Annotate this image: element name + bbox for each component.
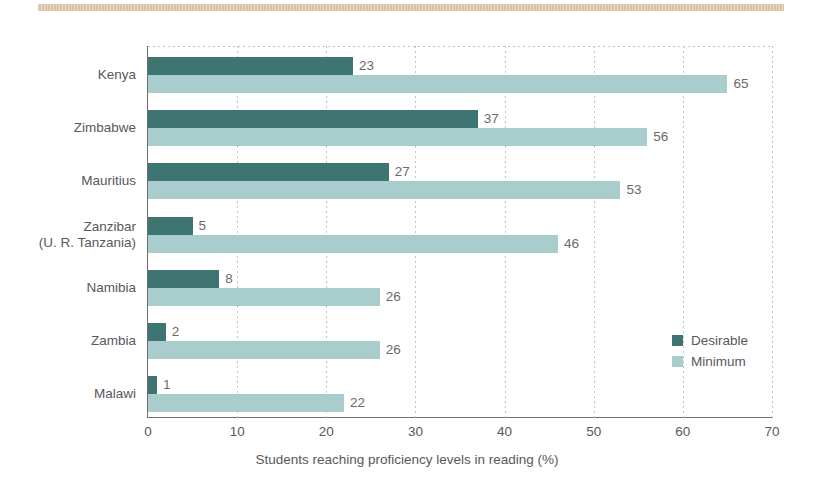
category-label-line: Zimbabwe — [74, 120, 136, 136]
bar-value-label: 22 — [350, 394, 365, 412]
bar-desirable-malawi — [148, 376, 157, 394]
bar-value-label: 26 — [386, 288, 401, 306]
category-label-line: (U. R. Tanzania) — [39, 235, 136, 251]
legend-item-minimum[interactable]: Minimum — [672, 351, 748, 372]
bar-value-label: 2 — [172, 323, 180, 341]
category-label-line: Malawi — [94, 386, 136, 402]
x-tick-label-30: 30 — [395, 424, 435, 439]
category-label-line: Zanzibar — [39, 219, 136, 235]
chart-legend: DesirableMinimum — [672, 330, 748, 372]
gridline-70 — [772, 46, 773, 418]
x-tick-label-50: 50 — [574, 424, 614, 439]
bar-value-label: 26 — [386, 341, 401, 359]
legend-swatch-minimum — [672, 356, 683, 367]
category-label-kenya: Kenya — [98, 67, 136, 83]
bar-value-label: 56 — [653, 128, 668, 146]
category-label-line: Zambia — [91, 333, 136, 349]
category-label-line: Mauritius — [81, 173, 136, 189]
bar-value-label: 53 — [626, 181, 641, 199]
bar-minimum-malawi — [148, 394, 344, 412]
legend-item-desirable[interactable]: Desirable — [672, 330, 748, 351]
bar-value-label: 65 — [733, 75, 748, 93]
category-label-line: Kenya — [98, 67, 136, 83]
bar-desirable-kenya — [148, 57, 353, 75]
category-label-zimbabwe: Zimbabwe — [74, 120, 136, 136]
bar-value-label: 1 — [163, 376, 171, 394]
bar-chart-figure: 236537562753546826226122 KenyaZimbabweMa… — [0, 0, 814, 492]
legend-label: Desirable — [691, 333, 748, 348]
category-label-malawi: Malawi — [94, 386, 136, 402]
x-tick-label-20: 20 — [306, 424, 346, 439]
x-tick-label-10: 10 — [217, 424, 257, 439]
category-label-zambia: Zambia — [91, 333, 136, 349]
bar-minimum-zimbabwe — [148, 128, 647, 146]
bar-desirable-zanzibar — [148, 217, 193, 235]
bar-minimum-mauritius — [148, 181, 620, 199]
x-axis-title: Students reaching proficiency levels in … — [0, 452, 814, 467]
bar-value-label: 46 — [564, 235, 579, 253]
bar-value-label: 23 — [359, 57, 374, 75]
bar-minimum-kenya — [148, 75, 727, 93]
bar-desirable-zambia — [148, 323, 166, 341]
bar-value-label: 5 — [199, 217, 207, 235]
bar-value-label: 27 — [395, 163, 410, 181]
x-tick-label-40: 40 — [485, 424, 525, 439]
category-label-mauritius: Mauritius — [81, 173, 136, 189]
bar-desirable-zimbabwe — [148, 110, 478, 128]
bar-minimum-zanzibar — [148, 235, 558, 253]
legend-label: Minimum — [691, 354, 746, 369]
bar-value-label: 37 — [484, 110, 499, 128]
bar-minimum-namibia — [148, 288, 380, 306]
bar-value-label: 8 — [225, 270, 233, 288]
x-tick-label-0: 0 — [128, 424, 168, 439]
x-tick-label-60: 60 — [663, 424, 703, 439]
bar-minimum-zambia — [148, 341, 380, 359]
category-label-namibia: Namibia — [86, 280, 136, 296]
category-label-zanzibar: Zanzibar(U. R. Tanzania) — [39, 219, 136, 251]
bar-desirable-mauritius — [148, 163, 389, 181]
bar-desirable-namibia — [148, 270, 219, 288]
category-label-line: Namibia — [86, 280, 136, 296]
legend-swatch-desirable — [672, 335, 683, 346]
x-tick-label-70: 70 — [752, 424, 792, 439]
